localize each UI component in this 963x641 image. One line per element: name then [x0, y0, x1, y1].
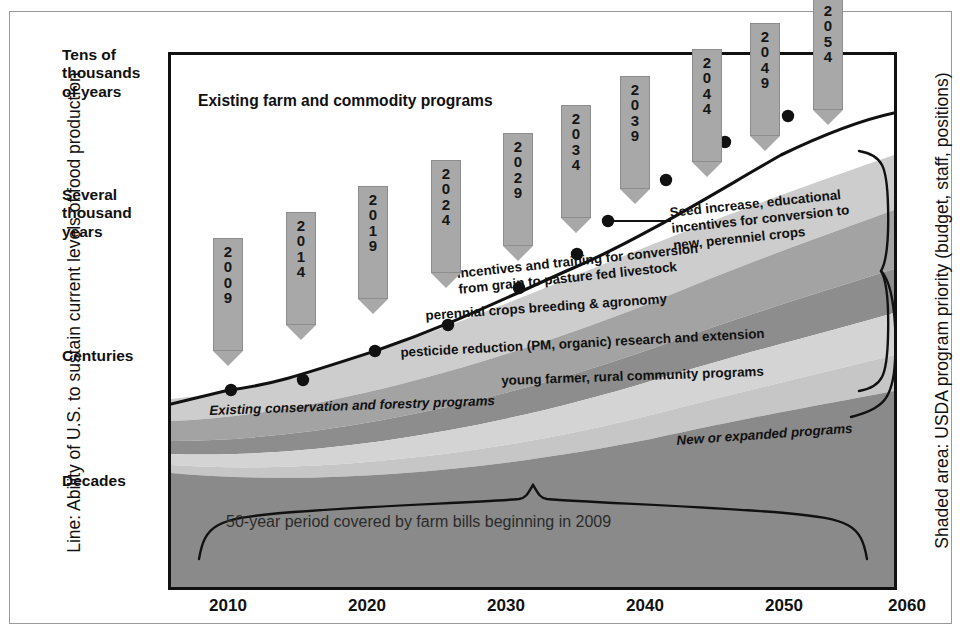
year-marker-2039-shaft: 2 0 3 9: [620, 76, 650, 189]
year-marker-2034-shaft: 2 0 3 4: [561, 105, 591, 218]
year-marker-2039-arrowhead: [620, 189, 650, 204]
year-marker-2019-d1: 0: [369, 207, 377, 222]
year-marker-2009-d2: 0: [224, 275, 232, 290]
year-marker-2029[interactable]: 2 0 2 9: [503, 133, 533, 261]
year-marker-2054-d1: 0: [824, 18, 832, 33]
chart-page: Line: Ability of U.S. to sustain current…: [0, 0, 963, 641]
year-marker-2009-d1: 0: [224, 259, 232, 274]
year-marker-2044-d0: 2: [703, 55, 711, 70]
year-marker-2014-d2: 1: [297, 249, 305, 264]
data-point-2019: [369, 345, 381, 357]
year-marker-2044-d2: 4: [703, 86, 711, 101]
year-marker-2014-arrowhead: [286, 325, 316, 340]
year-marker-2039-d1: 0: [631, 97, 639, 112]
year-marker-2034-arrowhead: [561, 218, 591, 233]
year-marker-2024-arrowhead: [431, 273, 461, 288]
year-marker-2049-d0: 2: [761, 29, 769, 44]
x-tick-2040: 2040: [600, 596, 690, 616]
year-marker-2009[interactable]: 2 0 0 9: [213, 238, 243, 366]
year-marker-2054-d3: 4: [824, 49, 832, 64]
year-marker-2029-d1: 0: [514, 154, 522, 169]
year-marker-2019-shaft: 2 0 1 9: [358, 186, 388, 299]
year-marker-2024-d1: 0: [442, 181, 450, 196]
year-marker-2019-d0: 2: [369, 192, 377, 207]
year-marker-2014[interactable]: 2 0 1 4: [286, 212, 316, 340]
year-marker-2049-shaft: 2 0 4 9: [750, 23, 780, 136]
year-marker-2039-d0: 2: [631, 82, 639, 97]
year-marker-2009-arrowhead: [213, 351, 243, 366]
year-marker-2024-d2: 2: [442, 197, 450, 212]
year-marker-2054[interactable]: 2 0 5 4: [813, 0, 843, 125]
year-marker-2049-d2: 4: [761, 60, 769, 75]
year-marker-2029-arrowhead: [503, 246, 533, 261]
year-marker-2019[interactable]: 2 0 1 9: [358, 186, 388, 314]
right-axis-title: Shaded area: USDA program priority (budg…: [932, 21, 953, 601]
year-marker-2029-d0: 2: [514, 139, 522, 154]
left-axis-title: Line: Ability of U.S. to sustain current…: [64, 33, 85, 593]
y-tick-decades: Decades: [62, 472, 166, 490]
year-marker-2019-d2: 1: [369, 223, 377, 238]
year-marker-2034-d1: 0: [572, 126, 580, 141]
year-marker-2049-arrowhead: [750, 136, 780, 151]
year-marker-2019-arrowhead: [358, 299, 388, 314]
year-marker-2034-d2: 3: [572, 142, 580, 157]
year-marker-2049-d1: 0: [761, 44, 769, 59]
x-tick-2060: 2060: [862, 596, 952, 616]
year-marker-2029-shaft: 2 0 2 9: [503, 133, 533, 246]
data-point-2054: [782, 110, 794, 122]
year-marker-2054-shaft: 2 0 5 4: [813, 0, 843, 110]
year-marker-2014-d1: 0: [297, 233, 305, 248]
y-tick-tens-of-thousands: Tens ofthousandsof years: [62, 46, 166, 101]
year-marker-2039[interactable]: 2 0 3 9: [620, 76, 650, 204]
year-marker-2044-d3: 4: [703, 101, 711, 116]
year-marker-2009-shaft: 2 0 0 9: [213, 238, 243, 351]
data-point-2014: [297, 374, 309, 386]
year-marker-2024[interactable]: 2 0 2 4: [431, 160, 461, 288]
year-marker-2029-d2: 2: [514, 170, 522, 185]
year-marker-2014-d0: 2: [297, 218, 305, 233]
year-marker-2034[interactable]: 2 0 3 4: [561, 105, 591, 233]
x-tick-2020: 2020: [322, 596, 412, 616]
year-marker-2024-shaft: 2 0 2 4: [431, 160, 461, 273]
plot-title: Existing farm and commodity programs: [198, 92, 493, 110]
year-marker-2044[interactable]: 2 0 4 4: [692, 49, 722, 177]
year-marker-2024-d3: 4: [442, 212, 450, 227]
year-marker-2049[interactable]: 2 0 4 9: [750, 23, 780, 151]
year-marker-2044-d1: 0: [703, 70, 711, 85]
year-marker-2044-shaft: 2 0 4 4: [692, 49, 722, 162]
bottom-note: 50-year period covered by farm bills beg…: [226, 513, 611, 531]
y-tick-centuries: Centuries: [62, 347, 166, 365]
year-marker-2034-d0: 2: [572, 111, 580, 126]
x-tick-2030: 2030: [461, 596, 551, 616]
year-marker-2049-d3: 9: [761, 75, 769, 90]
year-marker-2014-d3: 4: [297, 264, 305, 279]
x-tick-2010: 2010: [183, 596, 273, 616]
x-tick-2050: 2050: [739, 596, 829, 616]
y-tick-several-thousand: Severalthousandyears: [62, 186, 166, 241]
year-marker-2054-d2: 5: [824, 34, 832, 49]
year-marker-2024-d0: 2: [442, 166, 450, 181]
year-marker-2009-d3: 9: [224, 290, 232, 305]
year-marker-2009-d0: 2: [224, 244, 232, 259]
year-marker-2029-d3: 9: [514, 185, 522, 200]
year-marker-2039-d2: 3: [631, 113, 639, 128]
year-marker-2019-d3: 9: [369, 238, 377, 253]
data-point-2009: [225, 384, 237, 396]
year-marker-2039-d3: 9: [631, 128, 639, 143]
year-marker-2014-shaft: 2 0 1 4: [286, 212, 316, 325]
year-marker-2054-arrowhead: [813, 110, 843, 125]
data-point-2039: [602, 215, 614, 227]
year-marker-2034-d3: 4: [572, 157, 580, 172]
data-point-2044: [660, 174, 672, 186]
year-marker-2044-arrowhead: [692, 162, 722, 177]
year-marker-2054-d0: 2: [824, 3, 832, 18]
